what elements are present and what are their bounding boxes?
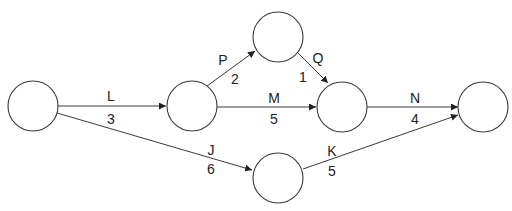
edge-P: P 2 bbox=[207, 51, 255, 87]
node-6 bbox=[253, 153, 303, 203]
edge-L-activity: L bbox=[107, 88, 115, 104]
edge-N: N 4 bbox=[367, 90, 458, 127]
edge-N-activity: N bbox=[410, 90, 420, 106]
node-5 bbox=[458, 82, 508, 132]
edge-L: L 3 bbox=[58, 88, 166, 127]
node-2 bbox=[167, 81, 217, 131]
edge-M-activity: M bbox=[268, 90, 280, 106]
edge-J: J 6 bbox=[57, 113, 252, 177]
edge-K-duration: 5 bbox=[328, 163, 336, 179]
network-diagram: L 3 J 6 P 2 M 5 Q 1 N 4 K 5 bbox=[0, 0, 512, 211]
edge-P-duration: 2 bbox=[231, 71, 239, 87]
edge-L-duration: 3 bbox=[107, 111, 115, 127]
edge-P-activity: P bbox=[218, 52, 227, 68]
node-1 bbox=[8, 81, 58, 131]
edge-M-duration: 5 bbox=[270, 111, 278, 127]
edge-K-activity: K bbox=[327, 143, 337, 159]
node-3 bbox=[253, 12, 303, 62]
node-4 bbox=[317, 82, 367, 132]
edge-J-duration: 6 bbox=[207, 161, 215, 177]
edge-N-duration: 4 bbox=[411, 111, 419, 127]
edge-Q: Q 1 bbox=[297, 50, 328, 85]
edge-Q-duration: 1 bbox=[299, 69, 307, 85]
edge-J-activity: J bbox=[208, 142, 215, 158]
edge-M: M 5 bbox=[217, 90, 316, 127]
edge-Q-activity: Q bbox=[313, 50, 324, 66]
